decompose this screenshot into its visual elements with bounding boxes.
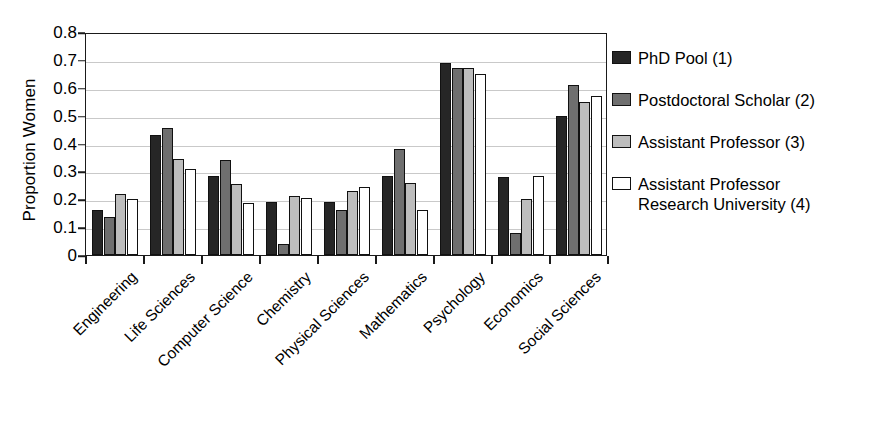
y-tick-label: 0.8	[53, 23, 77, 43]
bar	[591, 96, 602, 255]
bar	[452, 68, 463, 255]
y-tick-mark	[78, 172, 85, 174]
y-tick-mark	[78, 88, 85, 90]
bar-group	[86, 34, 144, 255]
legend-swatch-icon	[612, 135, 631, 148]
y-tick-label: 0.3	[53, 162, 77, 182]
bar	[498, 177, 509, 255]
bar	[231, 184, 242, 255]
y-tick-mark	[78, 144, 85, 146]
legend-label-line2: Research University (4)	[638, 194, 810, 214]
y-tick-label: 0.1	[53, 218, 77, 238]
x-axis-label: Psychology	[420, 268, 489, 337]
bar	[278, 244, 289, 255]
bar-group	[434, 34, 492, 255]
legend-item: PhD Pool (1)	[612, 48, 892, 68]
bar	[266, 202, 277, 255]
bar	[92, 210, 103, 255]
bar	[382, 176, 393, 255]
bar	[394, 149, 405, 255]
bar	[208, 176, 219, 255]
bar	[150, 135, 161, 255]
bar	[568, 85, 579, 255]
bar	[556, 116, 567, 255]
legend-swatch-icon	[612, 93, 631, 106]
y-tick-mark	[78, 32, 85, 34]
bar	[173, 159, 184, 255]
y-tick-mark	[78, 200, 85, 202]
bar-group	[318, 34, 376, 255]
bar	[359, 187, 370, 255]
bar	[579, 102, 590, 255]
bar-group	[202, 34, 260, 255]
bar-group	[492, 34, 550, 255]
y-tick-label: 0.5	[53, 107, 77, 127]
bar	[301, 198, 312, 255]
y-tick-label: 0.7	[53, 51, 77, 71]
bar-group	[144, 34, 202, 255]
legend-label: Postdoctoral Scholar (2)	[638, 90, 815, 110]
legend-label: PhD Pool (1)	[638, 48, 732, 68]
bar-group	[260, 34, 318, 255]
bar	[521, 199, 532, 255]
bar	[463, 68, 474, 255]
bar	[533, 176, 544, 255]
bar	[220, 160, 231, 255]
bar-group	[550, 34, 608, 255]
y-tick-mark	[78, 60, 85, 62]
bar	[289, 196, 300, 255]
legend-item: Assistant ProfessorResearch University (…	[612, 174, 892, 214]
bar	[115, 194, 126, 255]
y-tick-label: 0.2	[53, 190, 77, 210]
legend-item: Postdoctoral Scholar (2)	[612, 90, 892, 110]
bar	[127, 199, 138, 255]
x-axis-labels: EngineeringLife SciencesComputer Science…	[0, 256, 700, 426]
bar	[405, 183, 416, 255]
legend-label: Assistant ProfessorResearch University (…	[638, 174, 810, 214]
bar	[104, 217, 115, 255]
bar	[510, 233, 521, 255]
bar	[162, 128, 173, 255]
y-tick-label: 0.4	[53, 135, 77, 155]
chart-legend: PhD Pool (1)Postdoctoral Scholar (2)Assi…	[612, 48, 892, 236]
legend-label: Assistant Professor (3)	[638, 132, 805, 152]
bar	[243, 203, 254, 255]
bar-group	[376, 34, 434, 255]
bar	[417, 210, 428, 255]
y-tick-mark	[78, 116, 85, 118]
bar-series-container	[86, 34, 606, 255]
bar-chart-figure: Proportion Women 00.10.20.30.40.50.60.70…	[0, 0, 892, 429]
bar	[475, 74, 486, 255]
legend-swatch-icon	[612, 51, 631, 64]
bar	[347, 191, 358, 255]
y-tick-label: 0.6	[53, 79, 77, 99]
plot-area	[85, 33, 607, 256]
legend-item: Assistant Professor (3)	[612, 132, 892, 152]
bar	[336, 210, 347, 255]
bar	[440, 63, 451, 255]
bar	[185, 169, 196, 255]
legend-swatch-icon	[612, 177, 631, 190]
y-tick-mark	[78, 227, 85, 229]
y-axis-ticks: 00.10.20.30.40.50.60.70.8	[0, 0, 85, 256]
bar	[324, 202, 335, 255]
